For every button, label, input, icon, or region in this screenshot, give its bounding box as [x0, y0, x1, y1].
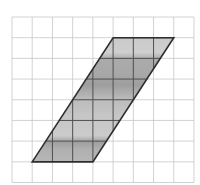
grid-figure — [0, 0, 200, 185]
parallelogram-on-grid-diagram — [0, 0, 200, 185]
